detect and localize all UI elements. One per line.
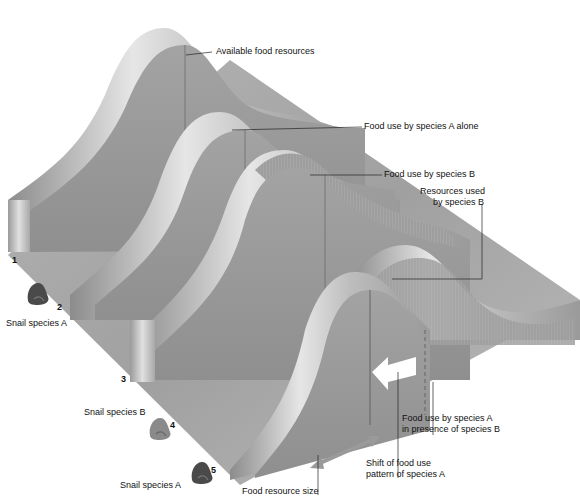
label-shift-line2: pattern of species A: [366, 469, 445, 480]
slice-number-3: 3: [121, 374, 126, 384]
label-food-use-a-presence: Food use by species A in presence of spe…: [402, 413, 500, 435]
label-resources-used-b-line2: by species B: [420, 197, 484, 208]
label-shift-line1: Shift of food use: [366, 458, 445, 469]
label-food-use-a-alone: Food use by species A alone: [364, 121, 479, 132]
label-snail-a-bottom: Snail species A: [120, 480, 181, 491]
label-snail-b: Snail species B: [84, 407, 146, 418]
label-food-resource-size: Food resource size: [242, 486, 319, 497]
label-food-use-a-presence-line1: Food use by species A: [402, 413, 500, 424]
snail-species-b-icon: [150, 418, 171, 440]
slice-number-1: 1: [12, 255, 17, 265]
slice-number-5: 5: [211, 465, 216, 475]
slice-number-2: 2: [57, 302, 62, 312]
slice-number-4: 4: [170, 420, 175, 430]
label-snail-a-top: Snail species A: [6, 318, 67, 329]
snail-species-a-icon-bottom: [192, 462, 213, 484]
label-available-food: Available food resources: [216, 46, 314, 57]
label-shift: Shift of food use pattern of species A: [366, 458, 445, 480]
label-resources-used-b: Resources used by species B: [420, 186, 484, 208]
label-food-use-a-presence-line2: in presence of species B: [402, 424, 500, 435]
label-food-use-b: Food use by species B: [384, 169, 475, 180]
label-resources-used-b-line1: Resources used: [420, 186, 484, 197]
